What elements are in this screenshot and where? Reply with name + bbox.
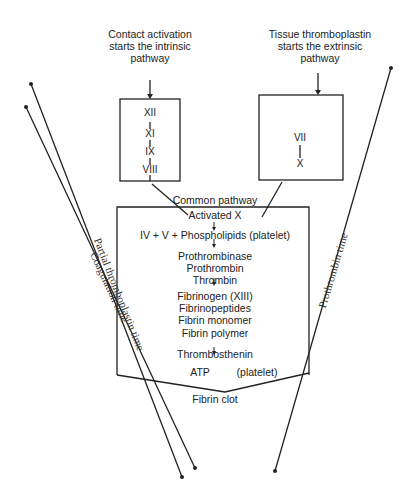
step-activated-x: Activated X bbox=[160, 209, 270, 221]
step-thrombosthenin: Thrombosthenin bbox=[160, 348, 270, 360]
step-thrombin: Thrombin bbox=[160, 274, 270, 286]
intrinsic-caption: Contact activation starts the intrinsic … bbox=[95, 28, 205, 64]
factor-ix: IX bbox=[135, 146, 165, 157]
factor-xi: XI bbox=[135, 128, 165, 139]
factor-vii: VII bbox=[285, 132, 315, 143]
caption-line: pathway bbox=[255, 52, 385, 64]
common-pathway-title: Common pathway bbox=[160, 194, 270, 206]
factor-viii: VIII bbox=[135, 164, 165, 175]
step-atp: ATP bbox=[185, 366, 215, 378]
step-platelet: (platelet) bbox=[232, 366, 282, 378]
factor-xii: XII bbox=[135, 107, 165, 118]
caption-line: Tissue thromboplastin bbox=[255, 28, 385, 40]
diagram-lines bbox=[0, 0, 411, 495]
step-phospholipids: IV + V + Phospholipids (platelet) bbox=[120, 229, 310, 241]
step-fibrin-monomer: Fibrin monomer bbox=[160, 314, 270, 326]
extrinsic-caption: Tissue thromboplastin starts the extrins… bbox=[255, 28, 385, 64]
step-fibrin-polymer: Fibrin polymer bbox=[160, 327, 270, 339]
step-fibrinopeptides: Fibrinopeptides bbox=[160, 302, 270, 314]
caption-line: starts the extrinsic bbox=[255, 40, 385, 52]
caption-line: pathway bbox=[95, 52, 205, 64]
step-prothrombinase: Prothrombinase bbox=[160, 250, 270, 262]
caption-line: starts the intrinsic bbox=[95, 40, 205, 52]
step-fibrinogen: Fibrinogen (XIII) bbox=[160, 290, 270, 302]
fibrin-clot: Fibrin clot bbox=[170, 393, 260, 405]
caption-line: Contact activation bbox=[95, 28, 205, 40]
step-prothrombin: Prothrombin bbox=[160, 262, 270, 274]
factor-x-extrinsic: X bbox=[285, 158, 315, 169]
